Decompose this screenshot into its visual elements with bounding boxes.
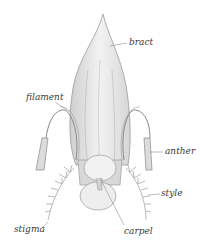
style-left xyxy=(48,168,74,220)
style-right xyxy=(126,168,146,220)
carpel-shape xyxy=(84,155,116,181)
label-style: style xyxy=(161,188,183,198)
anther-left xyxy=(36,138,48,170)
label-filament: filament xyxy=(26,92,64,102)
anther-right xyxy=(144,138,152,170)
label-anther: anther xyxy=(165,146,195,156)
flower-illustration xyxy=(0,0,200,248)
label-stigma: stigma xyxy=(14,224,45,234)
label-bract: bract xyxy=(129,37,153,47)
label-carpel: carpel xyxy=(124,226,153,236)
